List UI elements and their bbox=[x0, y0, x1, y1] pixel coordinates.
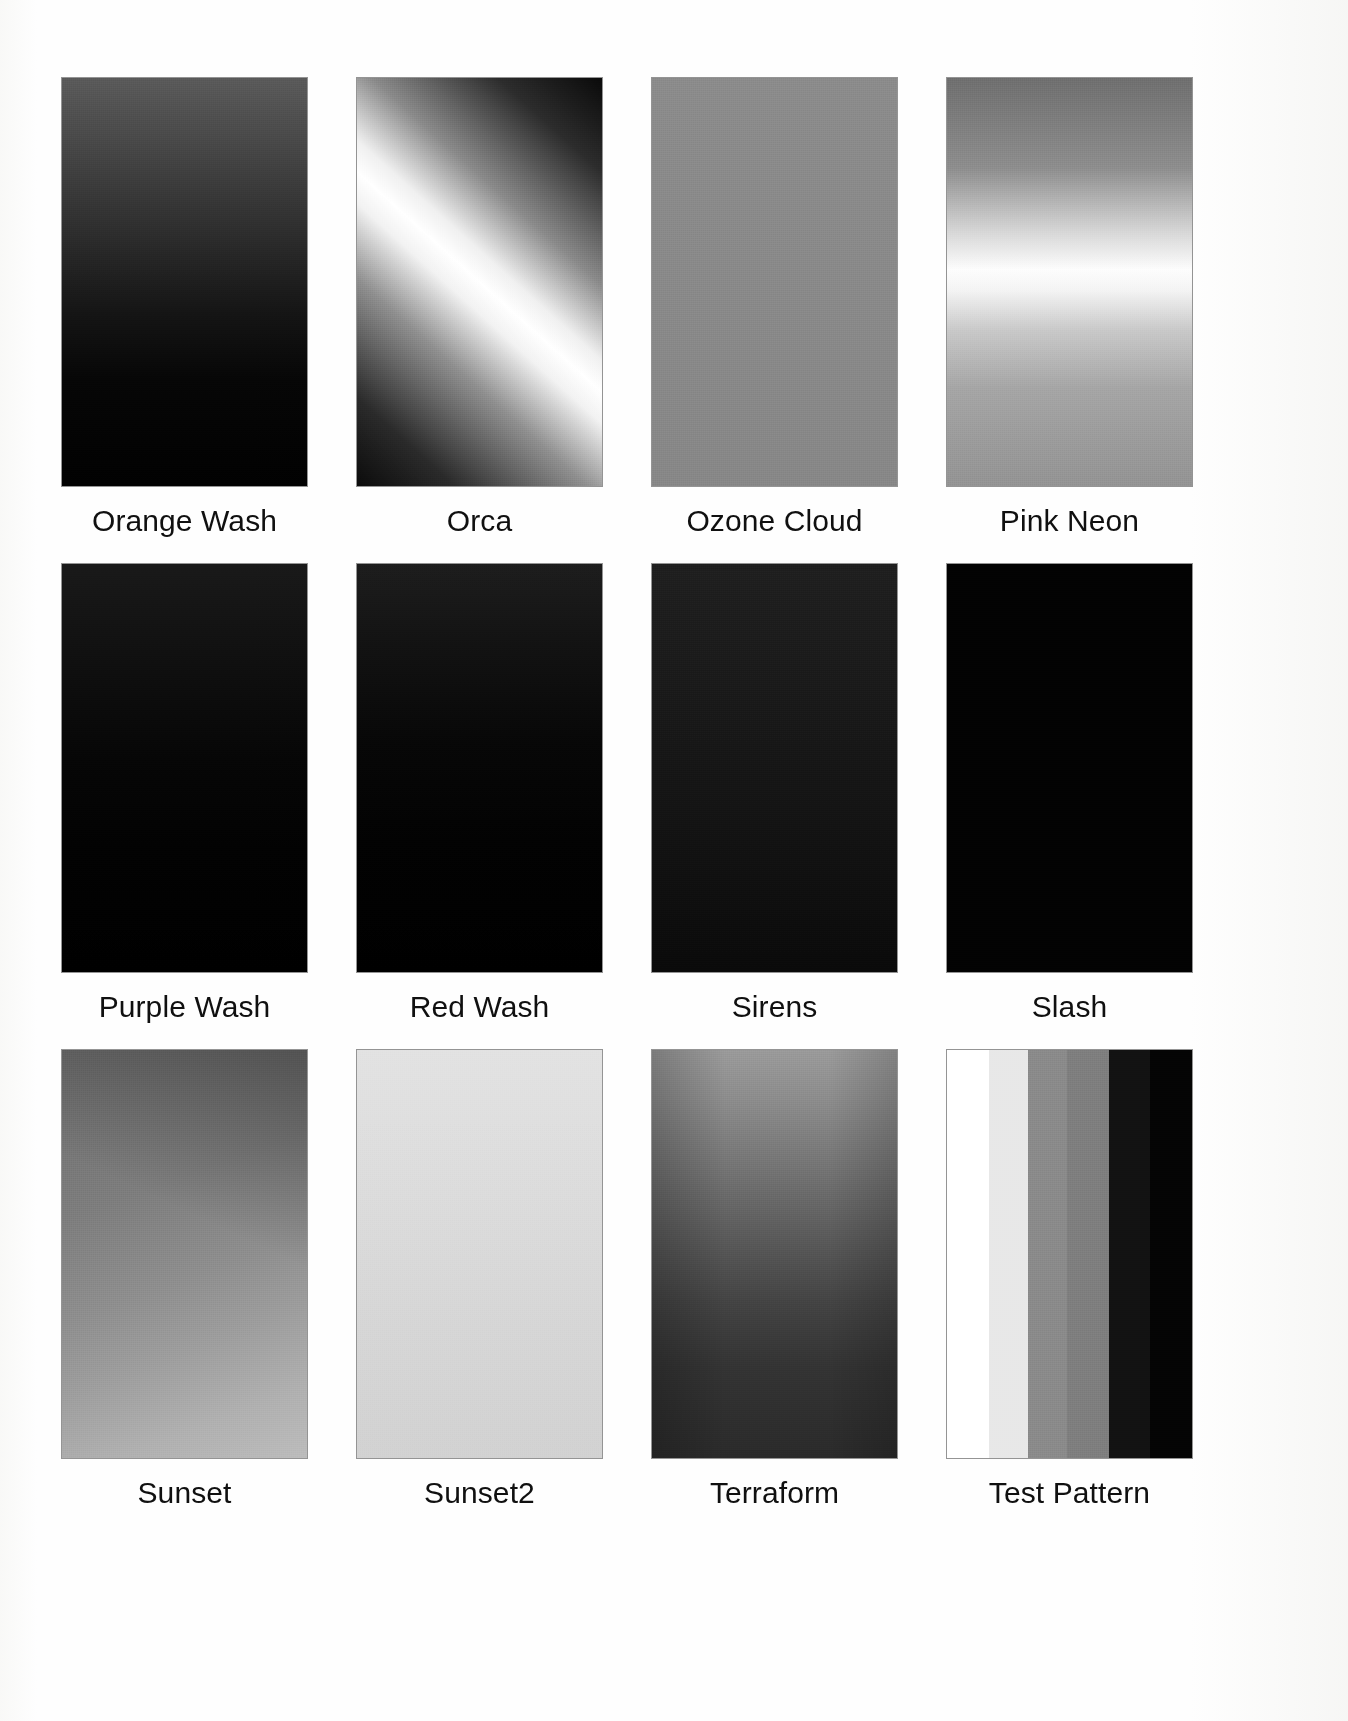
swatch-label: Sirens bbox=[732, 972, 818, 1050]
swatch-label: Ozone Cloud bbox=[686, 486, 862, 564]
swatch-fill bbox=[947, 564, 1192, 972]
swatch-label: Purple Wash bbox=[99, 972, 271, 1050]
test-pattern-bar-0 bbox=[947, 1050, 989, 1458]
swatch-label: Sunset bbox=[138, 1458, 232, 1536]
swatch-label: Terraform bbox=[710, 1458, 839, 1536]
swatch-cell-sirens[interactable]: Sirens bbox=[652, 564, 897, 1050]
test-pattern-bar-1 bbox=[989, 1050, 1028, 1458]
test-pattern-bar-5 bbox=[1150, 1050, 1192, 1458]
swatch-fill bbox=[62, 564, 307, 972]
swatch-fill bbox=[947, 78, 1192, 486]
swatch-preview-test-pattern[interactable] bbox=[947, 1050, 1192, 1458]
swatch-fill bbox=[652, 564, 897, 972]
swatch-cell-terraform[interactable]: Terraform bbox=[652, 1050, 897, 1536]
swatch-label: Orange Wash bbox=[92, 486, 277, 564]
test-pattern-bar-3 bbox=[1067, 1050, 1109, 1458]
swatch-cell-sunset2[interactable]: Sunset2 bbox=[357, 1050, 602, 1536]
swatch-preview-terraform[interactable] bbox=[652, 1050, 897, 1458]
swatch-preview-sunset2[interactable] bbox=[357, 1050, 602, 1458]
swatch-cell-pink-neon[interactable]: Pink Neon bbox=[947, 78, 1192, 564]
swatch-cell-orange-wash[interactable]: Orange Wash bbox=[62, 78, 307, 564]
swatch-preview-orca[interactable] bbox=[357, 78, 602, 486]
swatch-grid: Orange Wash Orca Ozone Cloud Pink Neon P… bbox=[62, 78, 1252, 1536]
swatch-label: Orca bbox=[447, 486, 512, 564]
swatch-preview-purple-wash[interactable] bbox=[62, 564, 307, 972]
grain-overlay bbox=[62, 1050, 307, 1458]
swatch-cell-red-wash[interactable]: Red Wash bbox=[357, 564, 602, 1050]
swatch-preview-red-wash[interactable] bbox=[357, 564, 602, 972]
swatch-cell-orca[interactable]: Orca bbox=[357, 78, 602, 564]
swatch-fill bbox=[62, 78, 307, 486]
swatch-fill bbox=[357, 564, 602, 972]
swatch-preview-sirens[interactable] bbox=[652, 564, 897, 972]
swatch-cell-slash[interactable]: Slash bbox=[947, 564, 1192, 1050]
swatch-cell-test-pattern[interactable]: Test Pattern bbox=[947, 1050, 1192, 1536]
swatch-label: Slash bbox=[1032, 972, 1108, 1050]
swatch-label: Test Pattern bbox=[989, 1458, 1150, 1536]
swatch-preview-pink-neon[interactable] bbox=[947, 78, 1192, 486]
swatch-cell-purple-wash[interactable]: Purple Wash bbox=[62, 564, 307, 1050]
swatch-fill bbox=[357, 1050, 602, 1458]
swatch-preview-orange-wash[interactable] bbox=[62, 78, 307, 486]
swatch-cell-ozone-cloud[interactable]: Ozone Cloud bbox=[652, 78, 897, 564]
swatch-preview-slash[interactable] bbox=[947, 564, 1192, 972]
swatch-preview-sunset[interactable] bbox=[62, 1050, 307, 1458]
swatch-label: Pink Neon bbox=[1000, 486, 1139, 564]
swatch-fill bbox=[357, 78, 602, 486]
swatch-label: Red Wash bbox=[410, 972, 550, 1050]
swatch-preview-ozone-cloud[interactable] bbox=[652, 78, 897, 486]
swatch-cell-sunset[interactable]: Sunset bbox=[62, 1050, 307, 1536]
grain-overlay bbox=[652, 1050, 897, 1458]
swatch-label: Sunset2 bbox=[424, 1458, 535, 1536]
test-pattern-bar-4 bbox=[1109, 1050, 1151, 1458]
test-pattern-bar-2 bbox=[1028, 1050, 1067, 1458]
swatch-fill bbox=[652, 78, 897, 486]
